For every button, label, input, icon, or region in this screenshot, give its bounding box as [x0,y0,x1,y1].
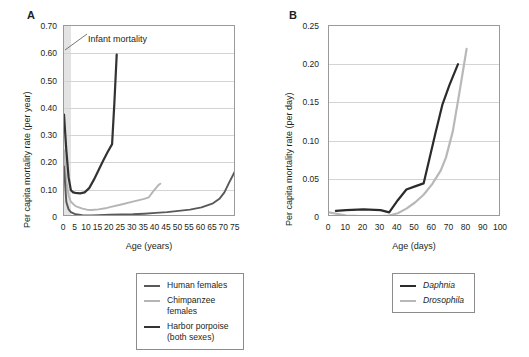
panel-b-ytick: 0.15 [291,97,319,107]
panel-b-xtick: 40 [388,222,406,232]
legend-item[interactable]: Chimpanzee females [144,295,234,317]
panel-b-ytick: 0 [291,212,319,222]
curve-daphnia [336,64,458,212]
curve-drosophila [329,49,467,216]
panel-b-letter: B [289,9,297,21]
panel-b-xtick: 80 [457,222,475,232]
panel-a-ytick: 0.30 [29,130,57,140]
panel-b-y-axis-label: Per capita mortality rate (per day) [284,92,294,226]
panel-b-ytick: 0.20 [291,59,319,69]
legend-line-swatch [144,300,160,302]
panel-a-ytick: 0 [29,212,57,222]
panel-a-ytick: 0.10 [29,185,57,195]
legend-line-swatch [144,326,160,328]
panel-a-ytick: 0.40 [29,103,57,113]
panel-b-xtick: 60 [422,222,440,232]
panel-b-plot-area [328,25,500,216]
panel-b-xtick: 20 [353,222,371,232]
curve-chimpanzee-females [64,150,160,210]
panel-b-xtick: 0 [319,222,337,232]
panel-b-x-axis-label: Age (days) [369,241,459,251]
panel-a-legend: Human females Chimpanzee females Harbor … [136,273,244,350]
legend-label: Harbor porpoise (both sexes) [167,321,229,343]
panel-a-ytick: 0.70 [29,21,57,31]
panel-a-ytick: 0.60 [29,48,57,58]
panel-a-annotation-leader-line [64,25,104,53]
legend-label: Drosophila [423,295,464,306]
legend-item[interactable]: Daphnia [400,280,465,291]
legend-line-swatch [144,285,160,287]
legend-label: Chimpanzee females [167,295,234,317]
curve-human-females [64,167,235,216]
panel-b-ytick: 0.05 [291,174,319,184]
panel-b-ytick: 0.25 [291,21,319,31]
panel-a-xtick: 75 [226,222,244,232]
curve-harbor-porpoise [64,55,117,194]
panel-a: A Per capita mortality rate (per year) 0… [0,0,265,357]
legend-item[interactable]: Drosophila [400,295,465,306]
legend-item[interactable]: Human females [144,280,234,291]
panel-a-letter: A [27,9,35,21]
panel-a-ytick: 0.50 [29,76,57,86]
panel-b-xtick: 10 [336,222,354,232]
panel-b-legend: Daphnia Drosophila [392,273,475,313]
panel-b-xtick: 100 [490,222,510,232]
panel-b-xtick: 50 [405,222,423,232]
panel-a-x-axis-label: Age (years) [104,241,194,251]
figure-container: A Per capita mortality rate (per year) 0… [0,0,529,357]
panel-a-ytick: 0.20 [29,157,57,167]
legend-item[interactable]: Harbor porpoise (both sexes) [144,321,234,343]
panel-b-xtick: 70 [439,222,457,232]
legend-label: Daphnia [423,280,455,291]
panel-b-curves [329,26,500,216]
panel-b-xtick: 30 [371,222,389,232]
legend-line-swatch [400,285,416,287]
legend-label: Human females [167,280,227,291]
panel-b: B Per capita mortality rate (per day) 0.… [265,0,529,357]
panel-a-plot-area [63,25,235,216]
panel-b-ytick: 0.10 [291,136,319,146]
panel-a-curves [64,26,235,216]
legend-line-swatch [400,300,416,302]
